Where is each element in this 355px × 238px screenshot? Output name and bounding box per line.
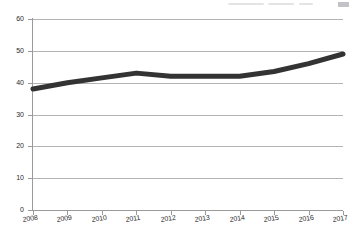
- series-line: [33, 54, 343, 89]
- data-series-line: [0, 0, 355, 238]
- line-chart: 0102030405060 20082009201020112012201320…: [0, 0, 355, 238]
